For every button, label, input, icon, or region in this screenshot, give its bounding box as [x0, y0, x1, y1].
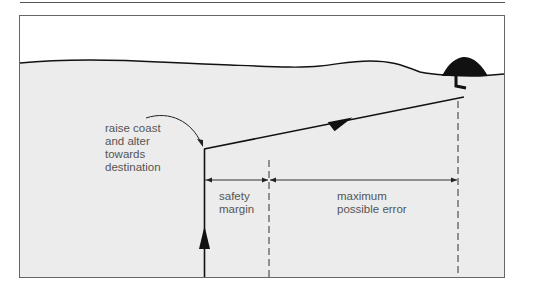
navigation-diagram	[0, 0, 550, 293]
land-area	[20, 60, 504, 277]
maximum-possible-error-label: maximum possible error	[337, 190, 407, 216]
raise-coast-label: raise coast and alter towards destinatio…	[105, 122, 161, 174]
safety-margin-label: safety margin	[219, 190, 254, 216]
